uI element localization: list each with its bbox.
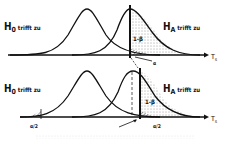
h0-label: H0 trifft zu (4, 21, 41, 34)
alpha-pointer (135, 57, 152, 61)
h0-label: H0 trifft zu (4, 83, 41, 96)
dashed-guide (131, 58, 138, 68)
axis-label: Ts (210, 115, 218, 124)
alpha-left-label: α/2 (30, 123, 38, 129)
top-panel: H0 trifft zu HA trifft zu 1-β α Ts (4, 5, 218, 68)
pointer-arrow (119, 120, 136, 127)
bottom-panel: H0 trifft zu HA trifft zu 1-β α/2 α/2 Ts (4, 68, 218, 129)
ha-label: HA trifft zu (163, 83, 200, 96)
hypothesis-test-diagram: H0 trifft zu HA trifft zu 1-β α Ts H0 tr… (0, 0, 230, 141)
alpha-label: α (153, 60, 156, 66)
ha-label: HA trifft zu (163, 21, 200, 34)
ha-curve (72, 71, 200, 117)
cutoff-caption (35, 135, 195, 139)
power-label: 1-β (133, 35, 143, 43)
alpha-right-label: α/2 (153, 123, 161, 129)
axis-arrow-icon (204, 53, 209, 58)
power-label: 1-β (145, 98, 155, 106)
axis-arrow-icon (204, 115, 209, 120)
axis-label: Ts (210, 53, 218, 62)
